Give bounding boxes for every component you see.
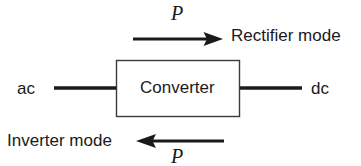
dc-terminal-label: dc bbox=[311, 80, 329, 97]
rectifier-flow-arrow bbox=[133, 32, 223, 46]
inverter-mode-label: Inverter mode bbox=[7, 132, 112, 149]
converter-power-flow-diagram: ac Converter dc P Rectifier mode Inverte… bbox=[0, 0, 361, 166]
ac-terminal-label: ac bbox=[17, 80, 35, 97]
rectifier-power-symbol: P bbox=[171, 3, 183, 23]
inverter-power-symbol: P bbox=[171, 146, 183, 166]
rectifier-mode-label: Rectifier mode bbox=[231, 27, 341, 44]
converter-box-label: Converter bbox=[140, 79, 215, 96]
